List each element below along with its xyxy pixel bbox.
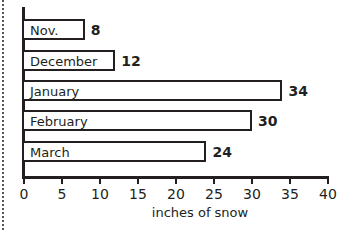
x-tick	[327, 178, 329, 184]
x-tick	[251, 178, 253, 184]
category-label: Nov.	[30, 22, 59, 39]
bar-march: March	[24, 141, 206, 162]
x-tick-label: 10	[85, 186, 115, 202]
bar-january: January	[24, 80, 282, 101]
x-tick	[175, 178, 177, 184]
category-label: February	[30, 113, 88, 130]
x-tick	[61, 178, 63, 184]
value-label: 30	[258, 113, 277, 129]
category-label: December	[30, 53, 97, 70]
category-label: March	[30, 144, 70, 161]
dotted-border	[2, 0, 4, 230]
x-tick-label: 20	[161, 186, 191, 202]
x-tick	[23, 178, 25, 184]
x-tick-label: 25	[199, 186, 229, 202]
x-tick-label: 0	[9, 186, 39, 202]
x-tick	[99, 178, 101, 184]
x-tick-label: 5	[47, 186, 77, 202]
x-tick-label: 15	[123, 186, 153, 202]
x-tick-label: 30	[237, 186, 267, 202]
value-label: 12	[121, 53, 140, 69]
bar-december: December	[24, 50, 115, 71]
category-label: January	[30, 83, 79, 100]
x-tick-label: 35	[275, 186, 305, 202]
bar-february: February	[24, 110, 252, 131]
x-tick	[213, 178, 215, 184]
x-tick	[137, 178, 139, 184]
value-label: 8	[91, 22, 101, 38]
value-label: 34	[288, 83, 307, 99]
x-tick	[289, 178, 291, 184]
x-tick-label: 40	[313, 186, 343, 202]
value-label: 24	[212, 144, 231, 160]
bar-nov: Nov.	[24, 19, 85, 40]
x-axis-label: inches of snow	[125, 205, 275, 220]
